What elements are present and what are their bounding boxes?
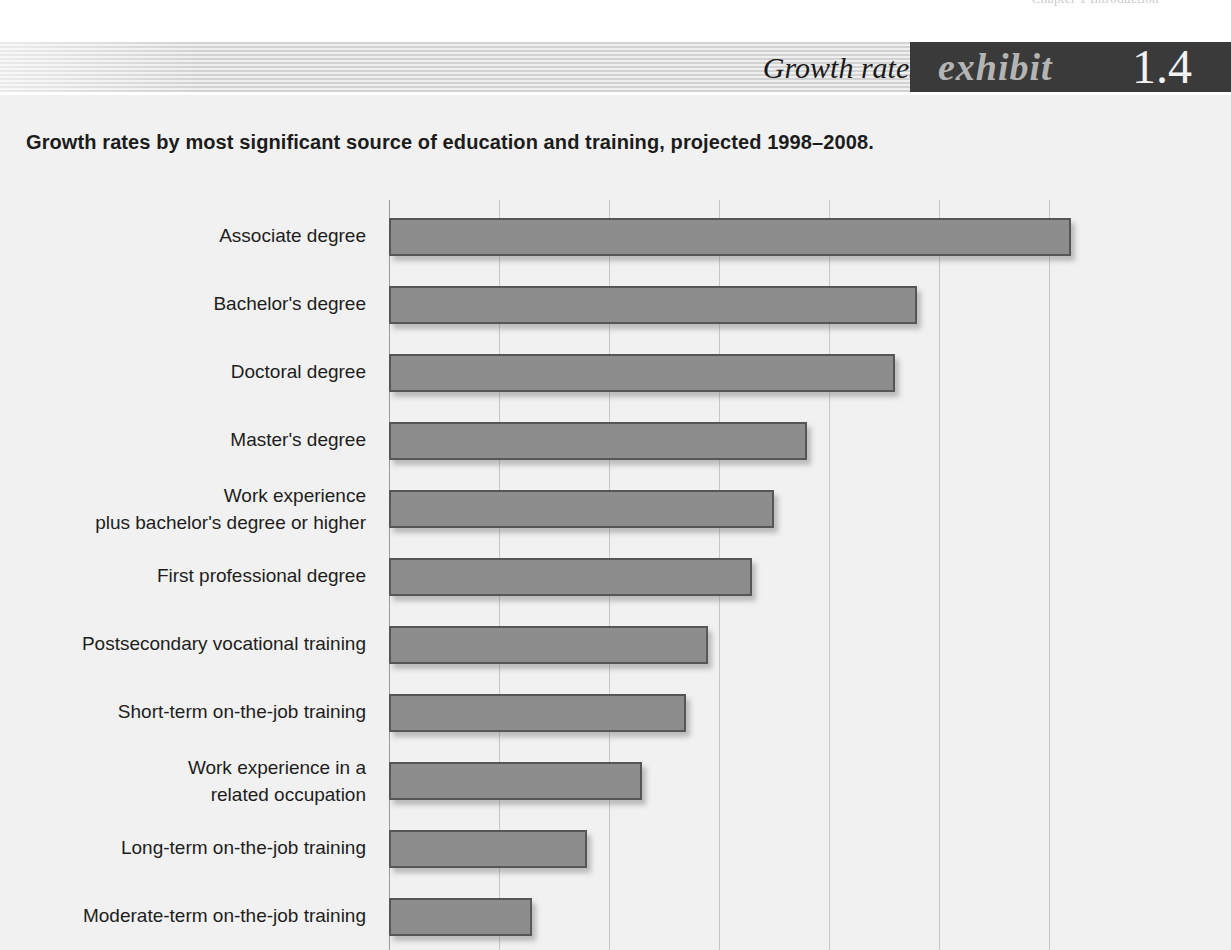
bar: [389, 830, 587, 868]
bar: [389, 694, 686, 732]
bar-chart-plot: Associate degreeBachelor's degreeDoctora…: [0, 200, 1231, 950]
bar-row-label: Doctoral degree: [0, 359, 366, 384]
bar-row-label: Work experienceplus bachelor's degree or…: [0, 482, 366, 536]
bar-row-label-line: Associate degree: [0, 223, 366, 248]
bar-row-label-line: plus bachelor's degree or higher: [0, 509, 366, 536]
bar: [389, 218, 1071, 256]
bar: [389, 898, 532, 936]
bar: [389, 626, 708, 664]
bar-row-label-line: Short-term on-the-job training: [0, 699, 366, 724]
bar-row: Short-term on-the-job training: [0, 680, 1231, 748]
bar-row: Master's degree: [0, 408, 1231, 476]
bar-row-label: Master's degree: [0, 427, 366, 452]
bar: [389, 422, 807, 460]
bar-row: Long-term on-the-job training: [0, 816, 1231, 884]
bar-row: First professional degree: [0, 544, 1231, 612]
bar-row-label-line: Work experience: [0, 482, 366, 509]
exhibit-number-tag: exhibit 1.4: [910, 42, 1231, 92]
page-running-head: Chapter 1 Introduction: [0, 0, 1231, 14]
bar-row-label-line: related occupation: [0, 781, 366, 808]
bar-row-label: Work experience in arelated occupation: [0, 754, 366, 808]
chart-subtitle: Growth rates by most significant source …: [26, 131, 874, 154]
bar-row-label: Postsecondary vocational training: [0, 631, 366, 656]
bar-row: Doctoral degree: [0, 340, 1231, 408]
bar-row-label-line: Master's degree: [0, 427, 366, 452]
bar-row-label-line: Long-term on-the-job training: [0, 835, 366, 860]
chart-panel: Growth rates by most significant source …: [0, 95, 1231, 950]
bar: [389, 490, 774, 528]
bar-row-label: Short-term on-the-job training: [0, 699, 366, 724]
bar-row: Associate degree: [0, 204, 1231, 272]
bar-row-label: Long-term on-the-job training: [0, 835, 366, 860]
bar-row: Work experienceplus bachelor's degree or…: [0, 476, 1231, 544]
running-head-text: Chapter 1 Introduction: [1032, 0, 1159, 7]
bar-row-label: Moderate-term on-the-job training: [0, 903, 366, 928]
bar-row-label-line: Bachelor's degree: [0, 291, 366, 316]
bar-row-label: First professional degree: [0, 563, 366, 588]
exhibit-word-label: exhibit: [938, 44, 1053, 90]
bar: [389, 558, 752, 596]
bar-row-label-line: Work experience in a: [0, 754, 366, 781]
exhibit-header-band: Growth rates by education. exhibit 1.4: [0, 42, 1231, 92]
bar-row: Work experience in arelated occupation: [0, 748, 1231, 816]
bar-row-list: Associate degreeBachelor's degreeDoctora…: [0, 200, 1231, 950]
bar-row-label-line: Moderate-term on-the-job training: [0, 903, 366, 928]
bar-row: Postsecondary vocational training: [0, 612, 1231, 680]
bar: [389, 762, 642, 800]
bar-row-label: Bachelor's degree: [0, 291, 366, 316]
bar-row: Bachelor's degree: [0, 272, 1231, 340]
bar: [389, 286, 917, 324]
bar-row-label-line: First professional degree: [0, 563, 366, 588]
bar-row-label-line: Doctoral degree: [0, 359, 366, 384]
exhibit-number-label: 1.4: [1132, 42, 1192, 92]
bar: [389, 354, 895, 392]
bar-row: Moderate-term on-the-job training: [0, 884, 1231, 950]
bar-row-label: Associate degree: [0, 223, 366, 248]
bar-row-label-line: Postsecondary vocational training: [0, 631, 366, 656]
